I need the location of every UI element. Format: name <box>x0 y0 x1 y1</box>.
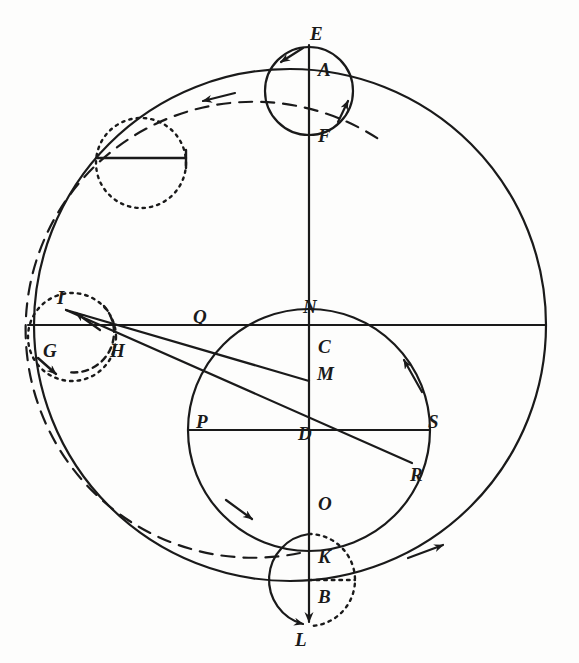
label-I: I <box>57 288 64 307</box>
diagram-canvas: E A F I Q N C G H M P D S R O K B L <box>0 0 579 663</box>
epicycle-bottom-solid-half <box>269 534 309 624</box>
outer-arc-arrow-bottom-right <box>408 545 443 558</box>
label-F: F <box>318 126 331 145</box>
outer-arc-arrow-top-left <box>203 93 235 101</box>
chord-I-to-M <box>66 310 309 381</box>
epicycle-left-dotted <box>28 293 116 381</box>
label-S: S <box>428 412 439 431</box>
label-D: D <box>298 424 312 443</box>
label-R: R <box>410 465 423 484</box>
label-N: N <box>303 297 317 316</box>
label-B: B <box>318 587 331 606</box>
inner-circle-right-arrow <box>404 360 422 392</box>
label-P: P <box>196 412 208 431</box>
label-E: E <box>310 24 323 43</box>
label-O: O <box>318 494 332 513</box>
label-A: A <box>318 60 331 79</box>
inner-circle-bottom-left-arrow <box>226 500 252 519</box>
label-C: C <box>318 337 331 356</box>
diagram-svg <box>0 0 579 663</box>
label-L: L <box>295 630 307 649</box>
label-M: M <box>317 364 334 383</box>
label-H: H <box>110 341 125 360</box>
label-K: K <box>318 547 331 566</box>
label-Q: Q <box>193 307 207 326</box>
epicycle-left-inner-dashed-arc <box>68 306 114 372</box>
label-G: G <box>43 341 57 360</box>
chord-I-to-R <box>66 310 412 463</box>
